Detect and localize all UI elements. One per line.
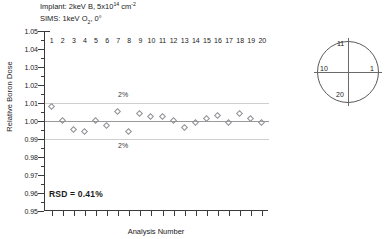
tolerance-band-line [45,103,269,104]
wafer-label-top: 11 [337,40,344,47]
data-point-marker [147,113,154,120]
x-axis-tick [262,211,263,216]
data-point-marker [125,128,132,135]
figure-root: Implant: 2keV B, 5x1014cm-2 SIMS: 1keV O… [0,0,392,239]
x-axis-tick [218,211,219,216]
y-axis-tick-label: 1.01 [4,100,38,107]
tolerance-band-line [45,139,269,140]
implant-condition-line: Implant: 2keV B, 5x1014cm-2 [40,1,136,13]
wafer-label-bottom: 20 [336,91,344,98]
figure-caption: Implant: 2keV B, 5x1014cm-2 SIMS: 1keV O… [40,1,136,25]
x-axis-tick [174,211,175,216]
wafer-orientation-map: 11 1 20 10 [317,41,379,103]
sims-prefix-text: SIMS: 1keV O [40,14,88,23]
wafer-label-right: 1 [370,65,374,72]
data-point-marker [192,119,199,126]
center-reference-line [45,121,269,122]
x-axis-tick [185,211,186,216]
lower-tolerance-label: 2% [118,142,128,149]
x-axis-tick [251,211,252,216]
wafer-label-left: 10 [320,65,328,72]
x-axis-tick [229,211,230,216]
data-point-marker [170,117,177,124]
x-axis-tick [52,211,53,216]
data-point-marker [236,110,243,117]
data-point-marker [181,124,188,131]
implant-prefix-text: Implant: 2keV B, 5x10 [40,2,113,11]
data-point-marker [70,126,77,133]
x-axis-tick [63,211,64,216]
y-axis-tick [38,211,44,212]
y-axis-labels: 1.051.041.031.021.011.000.990.980.970.96… [0,0,38,239]
x-axis-tick [74,211,75,216]
y-axis-tick-label: 1.02 [4,82,38,89]
implant-unit-text: cm [121,2,131,11]
data-point-marker [81,128,88,135]
data-point-marker [158,113,165,120]
data-point-marker [103,122,110,129]
x-axis-tick [196,211,197,216]
data-point-marker [225,119,232,126]
x-axis-tick [151,211,152,216]
data-point-marker [136,110,143,117]
y-axis-tick-label: 1.00 [4,118,38,125]
x-axis-tick [207,211,208,216]
x-axis-tick [118,211,119,216]
x-axis-tick [240,211,241,216]
x-axis-tick [96,211,97,216]
data-point-marker [92,117,99,124]
data-point-marker [114,108,121,115]
y-axis-tick-label: 0.99 [4,136,38,143]
x-axis-tick [85,211,86,216]
wafer-horizontal-axis-line [314,72,382,73]
y-axis-tick-label: 1.04 [4,46,38,53]
plot-area: 2%2%RSD = 0.41%1234567891011121314151617… [44,31,268,211]
x-axis-tick [107,211,108,216]
y-axis-tick-label: 0.97 [4,172,38,179]
rsd-annotation: RSD = 0.41% [49,189,103,199]
x-axis-tick [140,211,141,216]
y-axis-tick-label: 0.98 [4,154,38,161]
y-axis-tick-label: 0.95 [4,208,38,215]
x-axis-tick-label: 20 [255,37,269,44]
implant-unit-exponent-text: -2 [131,1,136,7]
x-axis-title: Analysis Number [44,227,268,236]
y-axis-tick-label: 0.96 [4,190,38,197]
data-point-marker [59,117,66,124]
x-axis-tick [163,211,164,216]
sims-condition-line: SIMS: 1keV O2, 0° [40,13,136,25]
sims-suffix-text: , 0° [90,14,101,23]
y-axis-tick-label: 1.03 [4,64,38,71]
implant-exponent-text: 14 [113,1,119,7]
data-point-marker [258,119,265,126]
y-axis-tick-label: 1.05 [4,28,38,35]
x-axis-tick [129,211,130,216]
upper-tolerance-label: 2% [118,91,128,98]
data-point-marker [214,112,221,119]
